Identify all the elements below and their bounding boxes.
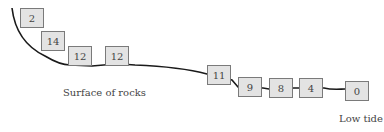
count-box-7: 8: [269, 78, 293, 98]
count-box-8: 4: [299, 78, 323, 98]
count-box-9: 0: [345, 81, 369, 101]
surface-of-rocks-label: Surface of rocks: [63, 87, 146, 98]
count-box-2: 14: [41, 31, 65, 51]
count-box-6: 9: [238, 77, 262, 97]
rock-surface-line: [0, 0, 384, 132]
count-box-4: 12: [105, 46, 129, 66]
count-box-3: 12: [68, 46, 92, 66]
count-box-1: 2: [20, 8, 44, 28]
count-box-5: 11: [207, 65, 231, 85]
low-tide-label: Low tide: [339, 113, 383, 124]
